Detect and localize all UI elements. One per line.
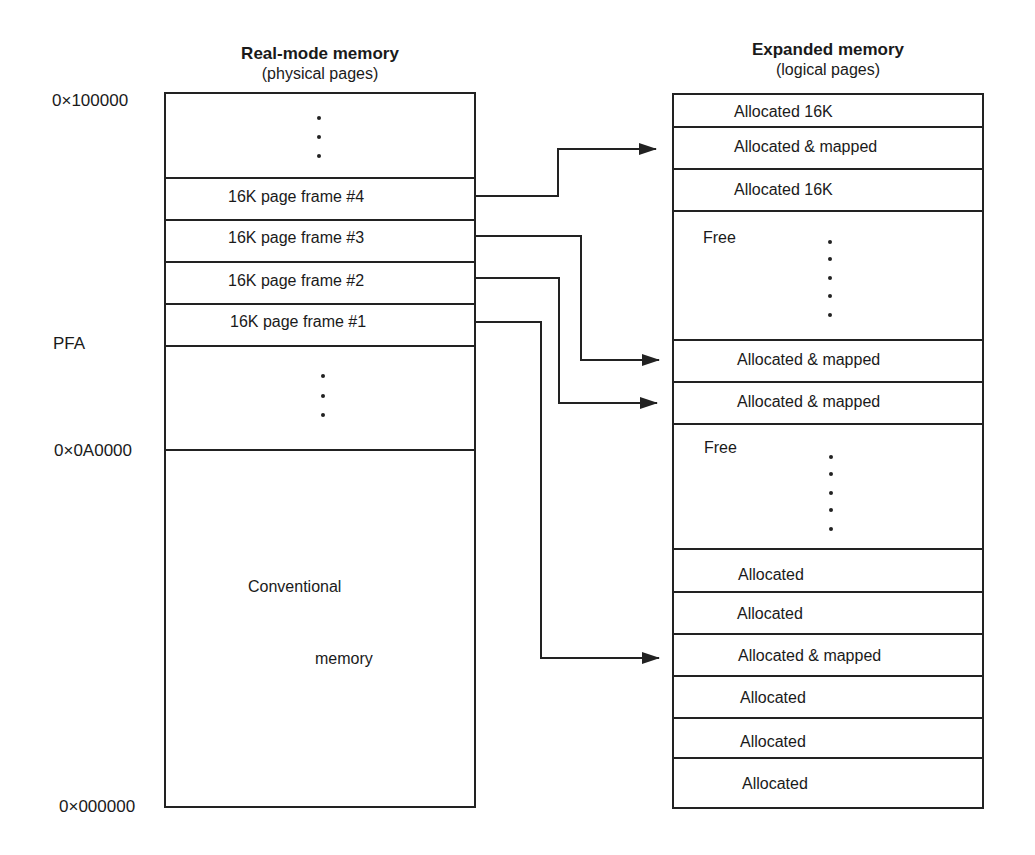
arrow-frame-1 <box>476 322 659 658</box>
arrow-frame-4 <box>476 149 656 196</box>
mapping-arrows <box>0 0 1035 855</box>
arrow-frame-3 <box>476 236 659 360</box>
arrow-frame-2 <box>476 278 657 403</box>
